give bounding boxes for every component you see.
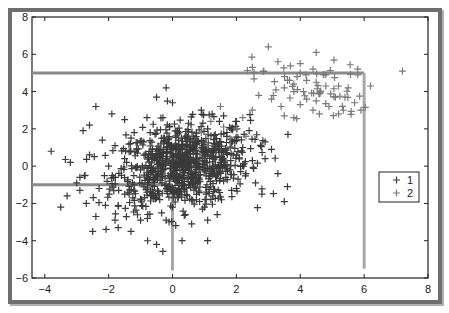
x-tick-label: 6 [361,283,367,295]
y-tick-label: 6 [22,48,28,60]
x-tick-label: 2 [233,283,239,295]
x-tick-label: 8 [425,283,431,295]
x-tick-label: 0 [169,283,175,295]
scatter-chart: −4−202468−6−4−202468 12 [0,0,449,313]
y-tick-label: −6 [15,272,28,284]
legend-label: 2 [407,187,413,199]
y-tick-label: 2 [22,123,28,135]
legend-label: 1 [407,174,413,186]
y-tick-label: 4 [22,86,28,98]
x-tick-label: −2 [102,283,115,295]
y-tick-label: −2 [15,197,28,209]
x-tick-label: 4 [297,283,303,295]
legend: 12 [379,172,419,202]
y-tick-label: −4 [15,235,28,247]
x-tick-label: −4 [39,283,52,295]
y-tick-label: 8 [22,11,28,23]
y-tick-label: 0 [22,160,28,172]
